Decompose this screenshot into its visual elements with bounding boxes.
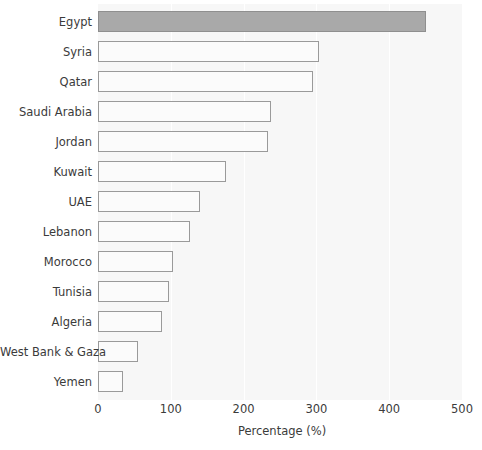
bar-lebanon[interactable]	[98, 221, 190, 242]
bar-row	[98, 127, 462, 157]
x-tick-200: 200	[233, 402, 255, 416]
bar-row	[98, 307, 462, 337]
x-tick-500: 500	[451, 402, 473, 416]
x-tick-100: 100	[160, 402, 182, 416]
category-label-saudi-arabia: Saudi Arabia	[0, 105, 92, 119]
x-axis-title-text: Percentage (%)	[238, 424, 326, 438]
bar-row	[98, 157, 462, 187]
category-label-algeria: Algeria	[0, 315, 92, 329]
bar-yemen[interactable]	[98, 371, 123, 392]
bars-group	[98, 4, 462, 400]
category-axis-labels: EgyptSyriaQatarSaudi ArabiaJordanKuwaitU…	[0, 4, 92, 400]
category-label-morocco: Morocco	[0, 255, 92, 269]
bar-row	[98, 247, 462, 277]
bar-row	[98, 37, 462, 67]
bar-qatar[interactable]	[98, 71, 313, 92]
bar-row	[98, 337, 462, 367]
x-axis-tick-labels: 0100200300400500	[0, 402, 482, 422]
x-tick-400: 400	[378, 402, 400, 416]
category-label-yemen: Yemen	[0, 375, 92, 389]
category-label-syria: Syria	[0, 45, 92, 59]
category-label-egypt: Egypt	[0, 15, 92, 29]
bar-row	[98, 97, 462, 127]
bar-row	[98, 217, 462, 247]
bar-morocco[interactable]	[98, 251, 173, 272]
gridline-500	[462, 4, 463, 400]
bar-syria[interactable]	[98, 41, 319, 62]
bar-saudi-arabia[interactable]	[98, 101, 271, 122]
bar-row	[98, 67, 462, 97]
bar-row	[98, 367, 462, 397]
x-tick-0: 0	[94, 402, 101, 416]
bar-algeria[interactable]	[98, 311, 162, 332]
bar-egypt[interactable]	[98, 11, 426, 32]
category-label-jordan: Jordan	[0, 135, 92, 149]
x-axis-title: Percentage (%)	[0, 424, 482, 438]
category-label-uae: UAE	[0, 195, 92, 209]
bar-row	[98, 7, 462, 37]
x-tick-300: 300	[305, 402, 327, 416]
category-label-lebanon: Lebanon	[0, 225, 92, 239]
bar-tunisia[interactable]	[98, 281, 169, 302]
bar-chart: EgyptSyriaQatarSaudi ArabiaJordanKuwaitU…	[0, 0, 482, 450]
bar-kuwait[interactable]	[98, 161, 226, 182]
bar-row	[98, 187, 462, 217]
bar-uae[interactable]	[98, 191, 200, 212]
category-label-kuwait: Kuwait	[0, 165, 92, 179]
plot-area	[98, 4, 462, 400]
category-label-west-bank-gaza: West Bank & Gaza	[0, 345, 92, 359]
bar-row	[98, 277, 462, 307]
category-label-qatar: Qatar	[0, 75, 92, 89]
bar-jordan[interactable]	[98, 131, 268, 152]
category-label-tunisia: Tunisia	[0, 285, 92, 299]
